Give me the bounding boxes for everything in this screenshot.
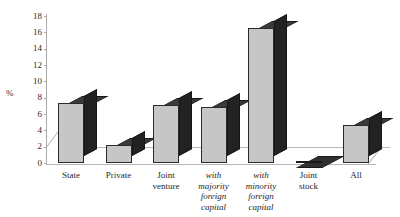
bar bbox=[343, 125, 369, 163]
bar bbox=[58, 103, 84, 163]
bar-front-face bbox=[106, 145, 132, 163]
x-axis-label-line: stock bbox=[278, 181, 340, 192]
x-axis-label-line: capital bbox=[230, 202, 292, 213]
bar bbox=[201, 107, 227, 163]
bar-front-face bbox=[201, 107, 227, 163]
bar-front-face bbox=[343, 125, 369, 163]
bar bbox=[153, 105, 179, 163]
bar-front-face bbox=[153, 105, 179, 163]
bar-front-face bbox=[248, 28, 274, 163]
x-axis-label-line: foreign bbox=[230, 191, 292, 202]
bar-side-face bbox=[132, 131, 145, 156]
bar bbox=[248, 28, 274, 163]
bar-front-face bbox=[296, 161, 322, 163]
bar-chart: % 181614121086420 StatePrivateJointventu… bbox=[0, 0, 400, 217]
x-axis-label: All bbox=[325, 170, 387, 181]
bar-side-face bbox=[179, 91, 192, 156]
bar bbox=[106, 145, 132, 163]
bar bbox=[296, 162, 322, 163]
bar-side-face bbox=[227, 93, 240, 156]
bar-side-face bbox=[369, 112, 382, 156]
x-axis-label-line: All bbox=[325, 170, 387, 181]
bar-side-face bbox=[84, 89, 97, 156]
bar-front-face bbox=[58, 103, 84, 163]
bar-side-face bbox=[274, 14, 287, 156]
